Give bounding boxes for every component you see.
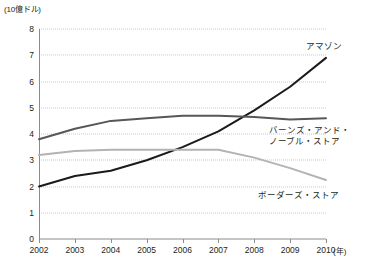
x-axis-tick-mark: [218, 239, 219, 243]
x-axis-unit-label: (年): [333, 245, 346, 256]
series-label-barnes-noble: バーンズ・アンド・ ノーブル・ストア: [269, 125, 350, 147]
y-axis-tick-label: 0: [29, 234, 34, 244]
x-axis-tick-mark: [290, 239, 291, 243]
y-axis-tick-label: 1: [29, 208, 34, 218]
x-axis-tick-label: 2002: [30, 245, 49, 255]
x-axis-tick-label: 2003: [65, 245, 84, 255]
y-axis-tick-label: 5: [29, 103, 34, 113]
x-axis-tick-label: 2007: [209, 245, 228, 255]
y-axis-tick-label: 8: [29, 24, 34, 34]
y-axis-unit-label: (10億ドル): [4, 3, 41, 14]
y-axis-tick-label: 2: [29, 182, 34, 192]
x-axis-tick-mark: [75, 239, 76, 243]
x-axis-tick-mark: [183, 239, 184, 243]
x-axis-tick-mark: [111, 239, 112, 243]
x-axis-tick-label: 2005: [137, 245, 156, 255]
series-label-borders: ボーダーズ・ストア: [258, 190, 339, 201]
x-axis-tick-label: 2006: [173, 245, 192, 255]
x-axis-tick-label: 2008: [245, 245, 264, 255]
y-axis-tick-label: 6: [29, 77, 34, 87]
x-axis-tick-mark: [326, 239, 327, 243]
y-axis-tick-label: 7: [29, 50, 34, 60]
series-label-barnes-noble-line2: ノーブル・ストア: [269, 136, 350, 147]
line-chart: (10億ドル) 012345678 2002200320042005200620…: [0, 0, 371, 266]
y-axis-tick-label: 3: [29, 155, 34, 165]
series-label-amazon: アマゾン: [306, 41, 342, 52]
x-axis-tick-label: 2004: [101, 245, 120, 255]
x-axis-tick-label: 2009: [281, 245, 300, 255]
series-line: [39, 58, 326, 187]
series-label-barnes-noble-line1: バーンズ・アンド・: [269, 125, 350, 136]
y-axis-tick-label: 4: [29, 129, 34, 139]
x-axis-tick-mark: [147, 239, 148, 243]
x-axis-tick-mark: [254, 239, 255, 243]
x-axis-tick-mark: [39, 239, 40, 243]
